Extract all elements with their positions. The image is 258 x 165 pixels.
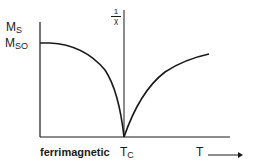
t-axis-label: T (196, 145, 203, 159)
inverse-chi-label: 1χ (111, 8, 121, 25)
inverse-susceptibility-curve (124, 54, 209, 137)
diagram-canvas (0, 0, 258, 165)
ferrimagnetic-label: ferrimagnetic (40, 146, 110, 158)
tc-label: TC (120, 145, 134, 159)
ms-curve (40, 43, 124, 137)
mso-value-label: MSO (5, 36, 28, 50)
ms-axis-label: MS (6, 20, 22, 34)
arrow-right-icon (238, 152, 243, 158)
